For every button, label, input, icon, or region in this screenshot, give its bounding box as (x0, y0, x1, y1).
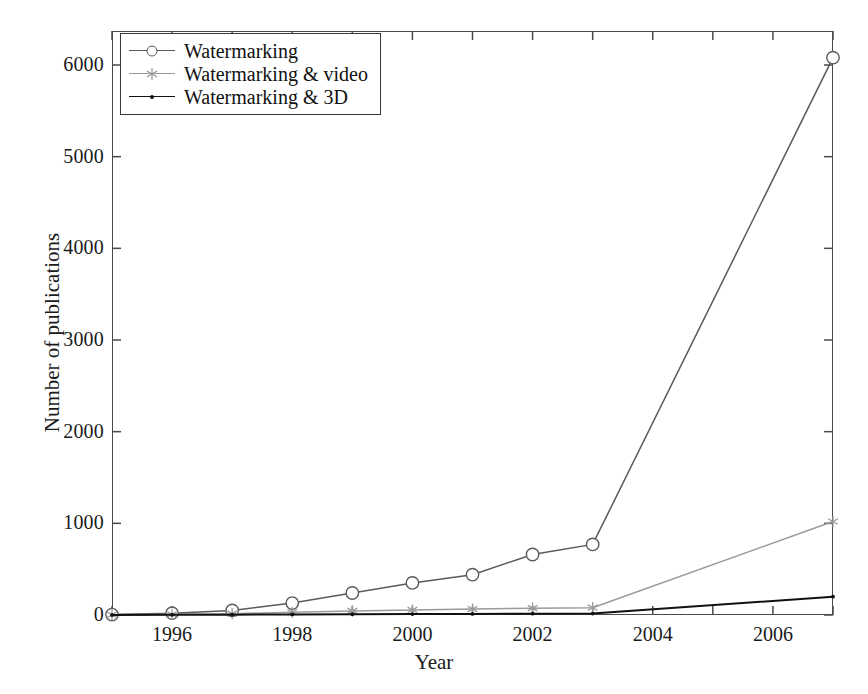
y-tick-label: 5000 (38, 146, 104, 166)
y-axis-title: Number of publications (40, 203, 65, 463)
x-tick-label: 2006 (728, 623, 818, 645)
x-tick-label: 1998 (247, 623, 337, 645)
legend-entry-watermarking-video: Watermarking & video (129, 62, 368, 85)
y-tick-marks (112, 65, 833, 615)
y-tick-label: 0 (38, 604, 104, 624)
legend-label: Watermarking (184, 40, 298, 62)
x-axis-title: Year (0, 650, 868, 675)
dot-marker-icon (129, 87, 175, 107)
y-tick-label: 1000 (38, 512, 104, 532)
publications-line-chart: 0100020003000400050006000 19961998200020… (0, 0, 868, 694)
legend-label: Watermarking & 3D (184, 86, 348, 108)
legend-entry-watermarking-3d: Watermarking & 3D (129, 85, 368, 108)
chart-legend: Watermarking Watermarking & video (120, 33, 381, 115)
x-tick-label: 2004 (608, 623, 698, 645)
legend-entry-watermarking: Watermarking (129, 39, 368, 62)
x-tick-label: 1996 (127, 623, 217, 645)
data-series-group (106, 51, 839, 620)
y-tick-label: 6000 (38, 54, 104, 74)
x-tick-label: 2000 (367, 623, 457, 645)
asterisk-marker-icon (129, 64, 175, 84)
circle-marker-icon (129, 41, 175, 61)
x-tick-label: 2002 (488, 623, 578, 645)
x-tick-marks (112, 31, 833, 615)
legend-label: Watermarking & video (184, 63, 368, 85)
